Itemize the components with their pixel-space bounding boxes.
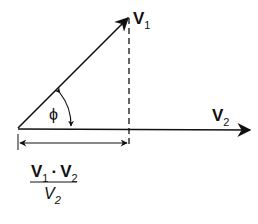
angle-arc [60,93,71,126]
vector-projection-diagram: V1 V2 ϕ V1·V2 V2 [0,0,258,224]
label-v1: V1 [133,9,150,31]
angle-label-phi: ϕ [49,106,58,123]
fraction-denominator: V2 [44,185,61,206]
vector-v2 [18,129,250,130]
label-v2: V2 [212,106,229,128]
fraction-numerator: V1·V2 [31,162,78,184]
vector-v1 [18,18,128,128]
